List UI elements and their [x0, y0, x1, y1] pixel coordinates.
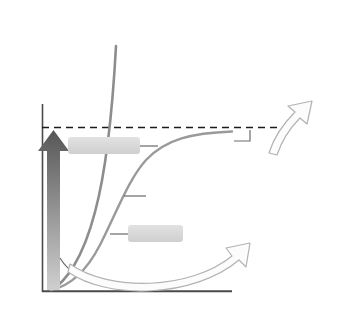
population-growth-figure — [0, 0, 356, 324]
exponential-label-box — [68, 137, 140, 154]
logistic-label-box — [128, 225, 183, 242]
